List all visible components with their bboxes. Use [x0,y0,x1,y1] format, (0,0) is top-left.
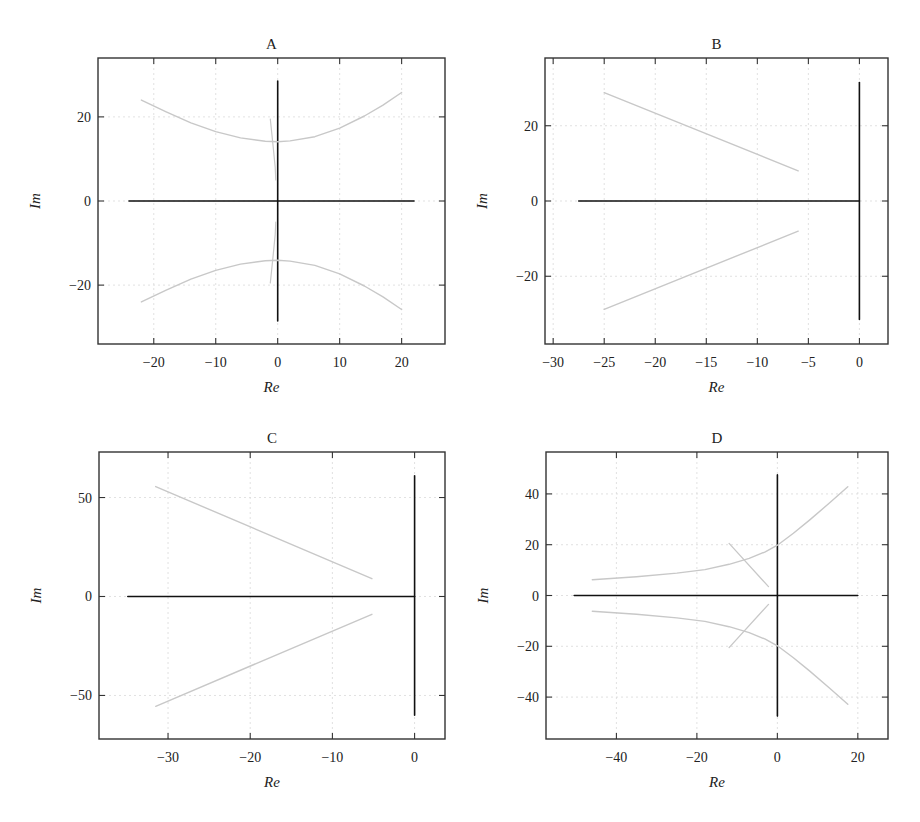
x-tick-label: −40 [605,750,627,765]
series-lower-branch [592,611,848,704]
series-upper-branch [592,487,848,580]
panel-d-title: D [712,430,723,446]
x-tick-label: −20 [686,750,708,765]
y-tick-label: −20 [517,639,539,654]
panel-d-series [574,475,858,716]
x-tick-label: 20 [851,750,865,765]
panel-d-ticks: −40−20020−40−2002040 [517,452,888,765]
y-tick-label: 0 [532,589,539,604]
panel-d-y-axis-label: Im [475,587,491,604]
series-crossing-lower [729,604,768,647]
panel-d-chart: −40−20020−40−2002040DReIm [0,0,920,822]
series-crossing-upper [729,543,768,586]
x-tick-label: 0 [774,750,781,765]
root-locus-figure: −20−1001020−20020AReIm −30−25−20−15−10−5… [0,0,920,822]
y-tick-label: 40 [525,487,539,502]
y-tick-label: −40 [517,690,539,705]
y-tick-label: 20 [525,538,539,553]
panel-d-x-axis-label: Re [708,774,725,790]
